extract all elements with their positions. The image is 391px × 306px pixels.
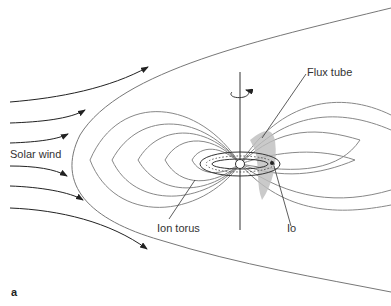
io-moon xyxy=(270,161,274,165)
leader-lines xyxy=(169,74,306,226)
label-flux-tube: Flux tube xyxy=(307,66,352,78)
label-ion-torus: Ion torus xyxy=(157,222,200,234)
label-io: Io xyxy=(287,222,296,234)
magnetopause-boundary xyxy=(72,8,391,292)
label-solar-wind: Solar wind xyxy=(10,148,61,160)
flux-tube xyxy=(250,131,276,200)
magnetosphere-diagram: Flux tube Solar wind Ion torus Io a xyxy=(0,0,391,306)
panel-label: a xyxy=(11,286,17,298)
jupiter xyxy=(236,160,245,169)
